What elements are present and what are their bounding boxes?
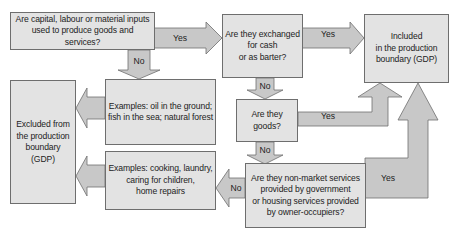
edge-label-nonmarket-yes: Yes: [378, 173, 398, 183]
edge-label-inputs-no: No: [129, 56, 149, 66]
node-examples-natural: Examples: oil in the ground; fish in the…: [105, 79, 216, 145]
node-text: Examples: cooking, laundry, caring for c…: [108, 163, 212, 198]
edge-label-goods-yes: Yes: [318, 111, 338, 121]
node-text: Are capital, labour or material inputs u…: [13, 14, 152, 49]
arrow-examples-natural-to-excluded: [76, 88, 105, 128]
node-text: Excluded from the production boundary (G…: [13, 119, 73, 165]
node-text: Examples: oil in the ground; fish in the…: [108, 101, 213, 124]
edge-label-goods-no: No: [255, 145, 275, 155]
edge-label-exchanged-no: No: [255, 81, 275, 91]
node-included: Included in the production boundary (GDP…: [364, 14, 449, 83]
arrow-examples-household-to-excluded: [76, 156, 105, 196]
edge-label-inputs-yes: Yes: [170, 33, 190, 43]
node-examples-household: Examples: cooking, laundry, caring for c…: [105, 151, 216, 210]
node-text: Are they exchanged for cash or as barter…: [225, 29, 300, 64]
node-text: Are they non-market services provided by…: [251, 173, 360, 219]
edge-label-exchanged-yes: Yes: [318, 29, 338, 39]
node-goods-question: Are they goods?: [236, 99, 298, 142]
node-text: Included in the production boundary (GDP…: [376, 31, 438, 66]
node-text: Are they goods?: [239, 109, 295, 132]
node-excluded: Excluded from the production boundary (G…: [10, 80, 76, 204]
edge-label-nonmarket-no: No: [226, 183, 246, 193]
node-exchanged-question: Are they exchanged for cash or as barter…: [222, 14, 303, 78]
node-inputs-question: Are capital, labour or material inputs u…: [10, 12, 155, 50]
node-nonmarket-question: Are they non-market services provided by…: [245, 163, 366, 228]
arrow-goods-to-included: [298, 83, 402, 126]
